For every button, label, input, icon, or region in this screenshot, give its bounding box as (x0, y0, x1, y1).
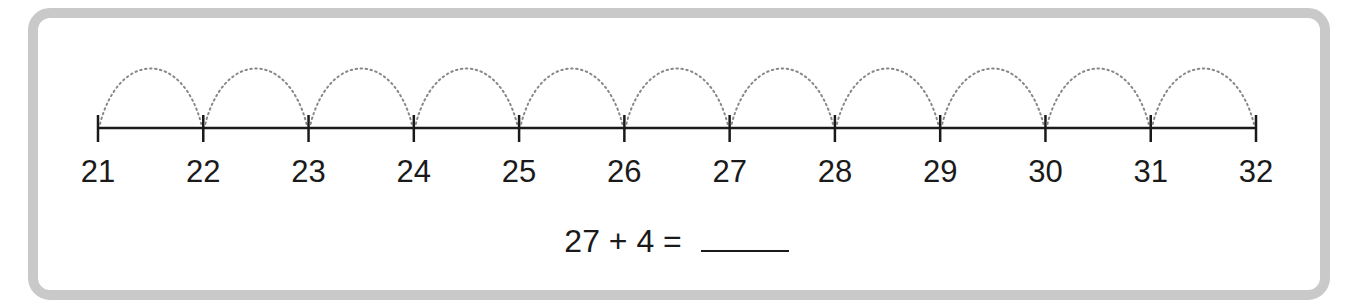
equals-sign: = (663, 223, 682, 259)
left-operand: 27 (564, 223, 600, 259)
hop-arc (205, 69, 306, 125)
hop-arc (521, 69, 622, 125)
tick-label: 29 (923, 154, 957, 189)
hop-arc (942, 69, 1043, 125)
tick-label: 31 (1133, 154, 1167, 189)
hop-arc (311, 69, 412, 125)
tick-label: 21 (81, 154, 115, 189)
tick-label: 26 (607, 154, 641, 189)
tick-label: 27 (712, 154, 746, 189)
hop-arc (837, 69, 938, 125)
tick-label: 32 (1239, 154, 1273, 189)
hop-arc (1153, 69, 1254, 125)
operator: + (609, 223, 628, 259)
hop-arc (626, 69, 727, 125)
hop-arc (1047, 69, 1148, 125)
tick-label: 23 (291, 154, 325, 189)
hop-arc (100, 69, 201, 125)
number-line: 212223242526272829303132 (0, 0, 1353, 307)
hop-arc (732, 69, 833, 125)
tick-label: 28 (818, 154, 852, 189)
tick-label: 30 (1028, 154, 1062, 189)
tick-label: 25 (502, 154, 536, 189)
right-operand: 4 (636, 223, 654, 259)
tick-label: 22 (186, 154, 220, 189)
hop-arc (416, 69, 517, 125)
tick-label: 24 (397, 154, 431, 189)
equation: 27 + 4 = (0, 222, 1353, 260)
answer-blank[interactable] (701, 222, 789, 252)
